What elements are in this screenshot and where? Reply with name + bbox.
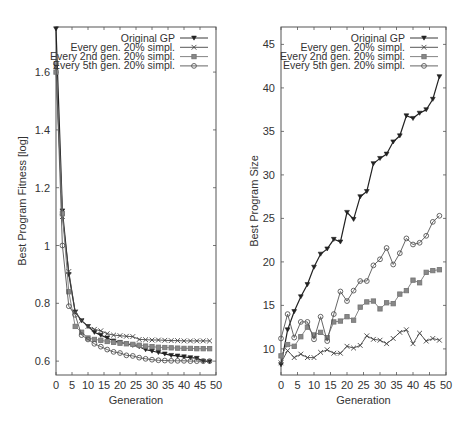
series-line (56, 66, 210, 341)
square-marker (299, 335, 303, 339)
square-marker (411, 278, 415, 282)
x-tick-label: 40 (407, 379, 419, 391)
square-marker (137, 343, 141, 347)
x-marker (430, 336, 435, 341)
legend-label: Every 5th gen. 20% simpl. (53, 59, 175, 71)
series-every-2nd-gen-20-simpl- (54, 70, 212, 351)
x-axis-label: Generation (109, 394, 163, 406)
square-marker (207, 347, 211, 351)
triangle-marker (351, 217, 356, 221)
circle-marker (437, 213, 442, 218)
square-marker (365, 300, 369, 304)
x-tick-label: 0 (278, 379, 284, 391)
x-marker (417, 331, 422, 336)
series-every-5th-gen-20-simpl- (279, 213, 442, 343)
square-marker (143, 344, 147, 348)
square-marker (422, 54, 426, 58)
x-tick-label: 40 (178, 379, 190, 391)
y-tick-label: 1.4 (35, 124, 50, 136)
y-tick-label: 40 (263, 82, 275, 94)
square-marker (175, 346, 179, 350)
y-tick-label: 25 (263, 212, 275, 224)
square-marker (437, 268, 441, 272)
figure: 051015202530354045500.60.811.21.41.6Gene… (0, 0, 473, 422)
triangle-marker (292, 310, 297, 314)
series-every-gen-20-simpl- (54, 64, 212, 343)
square-marker (163, 345, 167, 349)
square-marker (201, 347, 205, 351)
square-marker (378, 307, 382, 311)
x-marker (424, 339, 429, 344)
x-marker (318, 350, 323, 355)
x-axis-label: Generation (336, 394, 390, 406)
x-tick-label: 50 (210, 379, 222, 391)
x-marker (411, 341, 416, 346)
square-marker (169, 346, 173, 350)
square-marker (150, 345, 154, 349)
square-marker (124, 342, 128, 346)
square-marker (417, 281, 421, 285)
y-tick-label: 30 (263, 169, 275, 181)
y-tick-label: 35 (263, 125, 275, 137)
triangle-marker (312, 265, 317, 269)
legend: Original GPEvery gen. 20% simpl.Every 2n… (280, 32, 438, 72)
y-tick-label: 0.6 (35, 355, 50, 367)
square-marker (131, 342, 135, 346)
x-tick-label: 45 (423, 379, 435, 391)
square-marker (99, 338, 103, 342)
x-tick-label: 25 (130, 379, 142, 391)
y-tick-label: 0.8 (35, 297, 50, 309)
legend: Original GPEvery gen. 20% simpl.Every 2n… (50, 32, 208, 72)
plot-frame (281, 27, 446, 375)
y-tick-label: 10 (263, 343, 275, 355)
square-marker (188, 346, 192, 350)
y-axis-label: Best Program Size (248, 155, 260, 247)
x-marker (298, 352, 303, 357)
triangle-marker (338, 240, 343, 244)
square-marker (345, 315, 349, 319)
square-marker (156, 345, 160, 349)
triangle-marker (54, 27, 59, 31)
x-tick-label: 45 (194, 379, 206, 391)
x-marker (325, 347, 330, 352)
x-marker (397, 330, 402, 335)
x-tick-label: 10 (82, 379, 94, 391)
triangle-marker (391, 140, 396, 144)
square-marker (404, 288, 408, 292)
x-tick-label: 30 (146, 379, 158, 391)
y-tick-label: 1.2 (35, 182, 50, 194)
square-marker (371, 299, 375, 303)
x-tick-label: 50 (440, 379, 452, 391)
x-tick-label: 35 (390, 379, 402, 391)
series-every-5th-gen-20-simpl- (54, 61, 212, 364)
series-line (281, 330, 439, 363)
x-tick-label: 20 (341, 379, 353, 391)
square-marker (195, 347, 199, 351)
x-tick-label: 20 (114, 379, 126, 391)
square-marker (338, 319, 342, 323)
y-tick-label: 1.6 (35, 66, 50, 78)
square-marker (118, 341, 122, 345)
triangle-marker (318, 252, 323, 256)
y-tick-label: 1 (44, 240, 50, 252)
fitness-chart: 051015202530354045500.60.811.21.41.6Gene… (16, 27, 222, 406)
y-axis-label: Best Program Fitness [log] (16, 136, 28, 266)
series-line (56, 29, 210, 362)
square-marker (351, 318, 355, 322)
triangle-marker (305, 283, 310, 287)
x-tick-label: 30 (374, 379, 386, 391)
x-tick-label: 35 (162, 379, 174, 391)
series-line (56, 72, 210, 349)
square-marker (279, 354, 283, 358)
square-marker (424, 270, 428, 274)
square-marker (105, 339, 109, 343)
square-marker (431, 268, 435, 272)
square-marker (358, 305, 362, 309)
y-tick-label: 45 (263, 38, 275, 50)
square-marker (285, 342, 289, 346)
triangle-marker (437, 75, 442, 79)
x-tick-label: 5 (294, 379, 300, 391)
x-tick-label: 0 (53, 379, 59, 391)
x-marker (364, 333, 369, 338)
x-marker (358, 343, 363, 348)
